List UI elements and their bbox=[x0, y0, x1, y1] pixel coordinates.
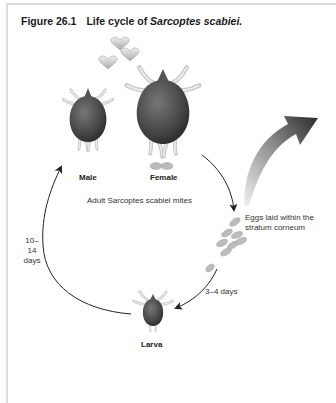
male-mite-icon bbox=[63, 87, 112, 150]
big-arrow-icon bbox=[244, 116, 318, 205]
larva-mite-icon bbox=[134, 290, 173, 332]
arrow-larva-to-adult bbox=[43, 167, 131, 314]
eggs-cluster-icon bbox=[204, 216, 247, 273]
female-mite-icon bbox=[127, 64, 200, 157]
female-label: Female bbox=[150, 173, 178, 182]
hearts-icon bbox=[99, 37, 139, 69]
larva-label: Larva bbox=[141, 340, 162, 349]
adults-label: Adult Sarcoptes scabiei mites bbox=[87, 196, 192, 205]
female-eggs-icon bbox=[150, 163, 173, 170]
arrow-female-to-eggs bbox=[202, 155, 234, 210]
eggs-label: Eggs laid within the stratum corneum bbox=[245, 213, 317, 233]
larva-to-adult-duration: 10–14 days bbox=[21, 236, 43, 266]
male-label: Male bbox=[79, 173, 97, 182]
egg-to-larva-duration: 3–4 days bbox=[205, 287, 237, 296]
